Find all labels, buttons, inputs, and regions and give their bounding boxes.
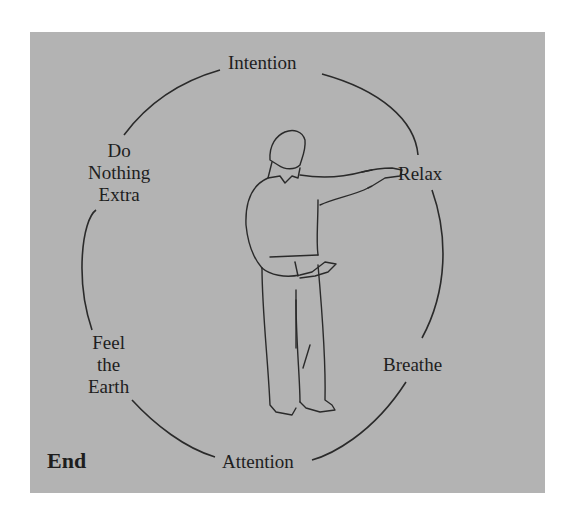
label-do-nothing-extra: Do Nothing Extra [88,140,150,206]
label-breathe: Breathe [383,354,442,376]
arc-intention-relax [322,74,418,155]
label-end: End [47,450,86,472]
label-attention: Attention [222,451,294,473]
arc-earth-donothing [82,210,96,330]
arc-donothing-intention [124,70,220,135]
label-feel-the-earth: Feel the Earth [88,332,129,398]
standing-figure-icon [246,130,402,415]
circle-diagram [0,0,573,524]
label-relax: Relax [398,163,442,185]
arc-relax-breathe [422,190,443,338]
arc-attention-earth [132,400,215,457]
label-intention: Intention [228,52,297,74]
arc-breathe-attention [312,382,406,460]
